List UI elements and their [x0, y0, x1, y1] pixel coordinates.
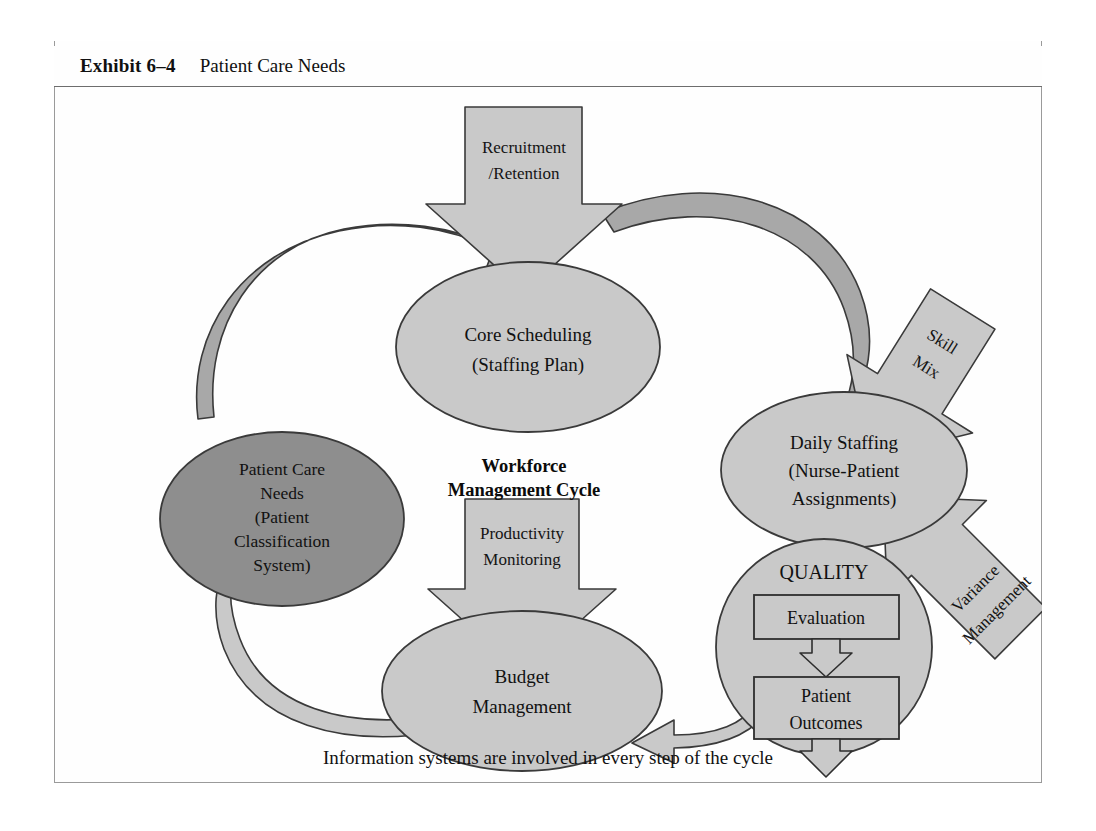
center-title-line1: Workforce — [482, 456, 567, 476]
node-daily-staffing[interactable]: Daily Staffing (Nurse-Patient Assignment… — [721, 392, 967, 548]
node-label-line3: Assignments) — [792, 488, 897, 510]
node-label-line1: Budget — [495, 666, 551, 687]
node-label-line5: System) — [253, 555, 311, 575]
node-quality[interactable]: QUALITY Evaluation Patient Outcomes — [716, 539, 932, 777]
node-label-line4: Classification — [234, 531, 330, 551]
input-arrow-label-line2: /Retention — [489, 164, 560, 183]
exhibit-title: Patient Care Needs — [200, 55, 346, 77]
quality-box-evaluation[interactable]: Evaluation — [754, 595, 899, 639]
diagram-canvas: Recruitment /Retention Skill Mix Varianc… — [54, 87, 1042, 783]
node-label-line1: Patient Care — [239, 459, 325, 479]
input-arrow-label-line1: Recruitment — [482, 138, 566, 157]
node-label-quality: QUALITY — [780, 561, 869, 583]
quality-box-patient-outcomes[interactable]: Patient Outcomes — [754, 677, 899, 739]
node-patient-care-needs[interactable]: Patient Care Needs (Patient Classificati… — [160, 432, 404, 606]
quality-box-label-line2: Outcomes — [790, 713, 863, 733]
node-label-line1: Daily Staffing — [790, 432, 898, 453]
node-label-line2: Management — [472, 696, 572, 717]
exhibit-number: Exhibit 6–4 — [80, 55, 176, 77]
center-title: Workforce Management Cycle — [448, 456, 601, 500]
node-label-line2: (Staffing Plan) — [472, 354, 584, 376]
input-arrow-label-line1: Productivity — [480, 524, 565, 543]
node-label-line3: (Patient — [255, 507, 310, 527]
node-label-line2: Needs — [260, 483, 304, 503]
node-core-scheduling[interactable]: Core Scheduling (Staffing Plan) — [396, 262, 660, 432]
node-label-line1: Core Scheduling — [464, 324, 592, 345]
center-title-line2: Management Cycle — [448, 480, 601, 500]
exhibit-header: Exhibit 6–4 Patient Care Needs — [54, 46, 1042, 87]
caption-text: Information systems are involved in ever… — [323, 747, 773, 768]
quality-box-label: Evaluation — [787, 608, 865, 628]
input-arrow-label-line2: Monitoring — [483, 550, 561, 569]
node-label-line2: (Nurse-Patient — [789, 460, 901, 482]
quality-box-label-line1: Patient — [801, 686, 851, 706]
diagram-caption: Information systems are involved in ever… — [323, 747, 773, 768]
